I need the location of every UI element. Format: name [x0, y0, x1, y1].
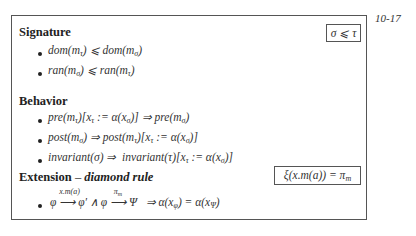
behavior-item-post: post(mσ) ⇒ post(mτ)[xτ := α(xσ)]: [48, 130, 198, 145]
extension-heading: Extension – diamond rule: [19, 170, 153, 185]
bullet-icon: [38, 52, 42, 56]
signature-item-ran: ran(mσ) ⩽ ran(mτ): [48, 63, 135, 78]
page-number: 10-17: [375, 12, 401, 24]
signature-heading: Signature: [19, 25, 71, 40]
labeled-arrow-2: πm⟶: [110, 195, 126, 209]
bullet-icon: [38, 119, 42, 123]
phi-symbol: φ: [50, 196, 56, 208]
arrow-2-label: πm: [110, 187, 126, 197]
behavior-item-invariant: invariant(σ) ⇒ invariant(τ)[xτ := α(xσ)]: [48, 150, 233, 165]
bullet-icon: [38, 139, 42, 143]
implication: ⇒ α(xφ) = α(xΨ): [146, 196, 220, 208]
arrow-1-label: x.m(a): [59, 187, 75, 196]
diamond-rule-box: ξ(x.m(a)) = πm: [274, 166, 361, 185]
labeled-arrow-1: x.m(a)⟶: [59, 195, 75, 209]
extension-item-diamond: φ x.m(a)⟶ φ′ ∧ φ πm⟶ Ψ ⇒ α(xφ) = α(xΨ): [50, 195, 220, 210]
bullet-icon: [38, 159, 42, 163]
phi-prime-and-phi: φ′ ∧ φ: [78, 196, 107, 208]
diamond-rule-text: ξ(x.m(a)) = πm: [284, 169, 351, 183]
extension-dash: –: [75, 170, 81, 184]
bullet-icon: [38, 72, 42, 76]
behavior-heading: Behavior: [19, 94, 68, 109]
psi-symbol: Ψ: [129, 196, 137, 208]
extension-title: Extension: [19, 170, 72, 184]
extension-subtitle: diamond rule: [84, 170, 153, 184]
subtype-constraint-text: σ ⩽ τ: [331, 26, 357, 40]
signature-item-dom: dom(mτ) ⩽ dom(mσ): [48, 43, 142, 58]
bullet-icon: [38, 204, 42, 208]
subtype-constraint-box: σ ⩽ τ: [326, 24, 361, 42]
behavior-item-pre: pre(mτ)[xτ := α(xσ)] ⇒ pre(mσ): [48, 110, 189, 125]
